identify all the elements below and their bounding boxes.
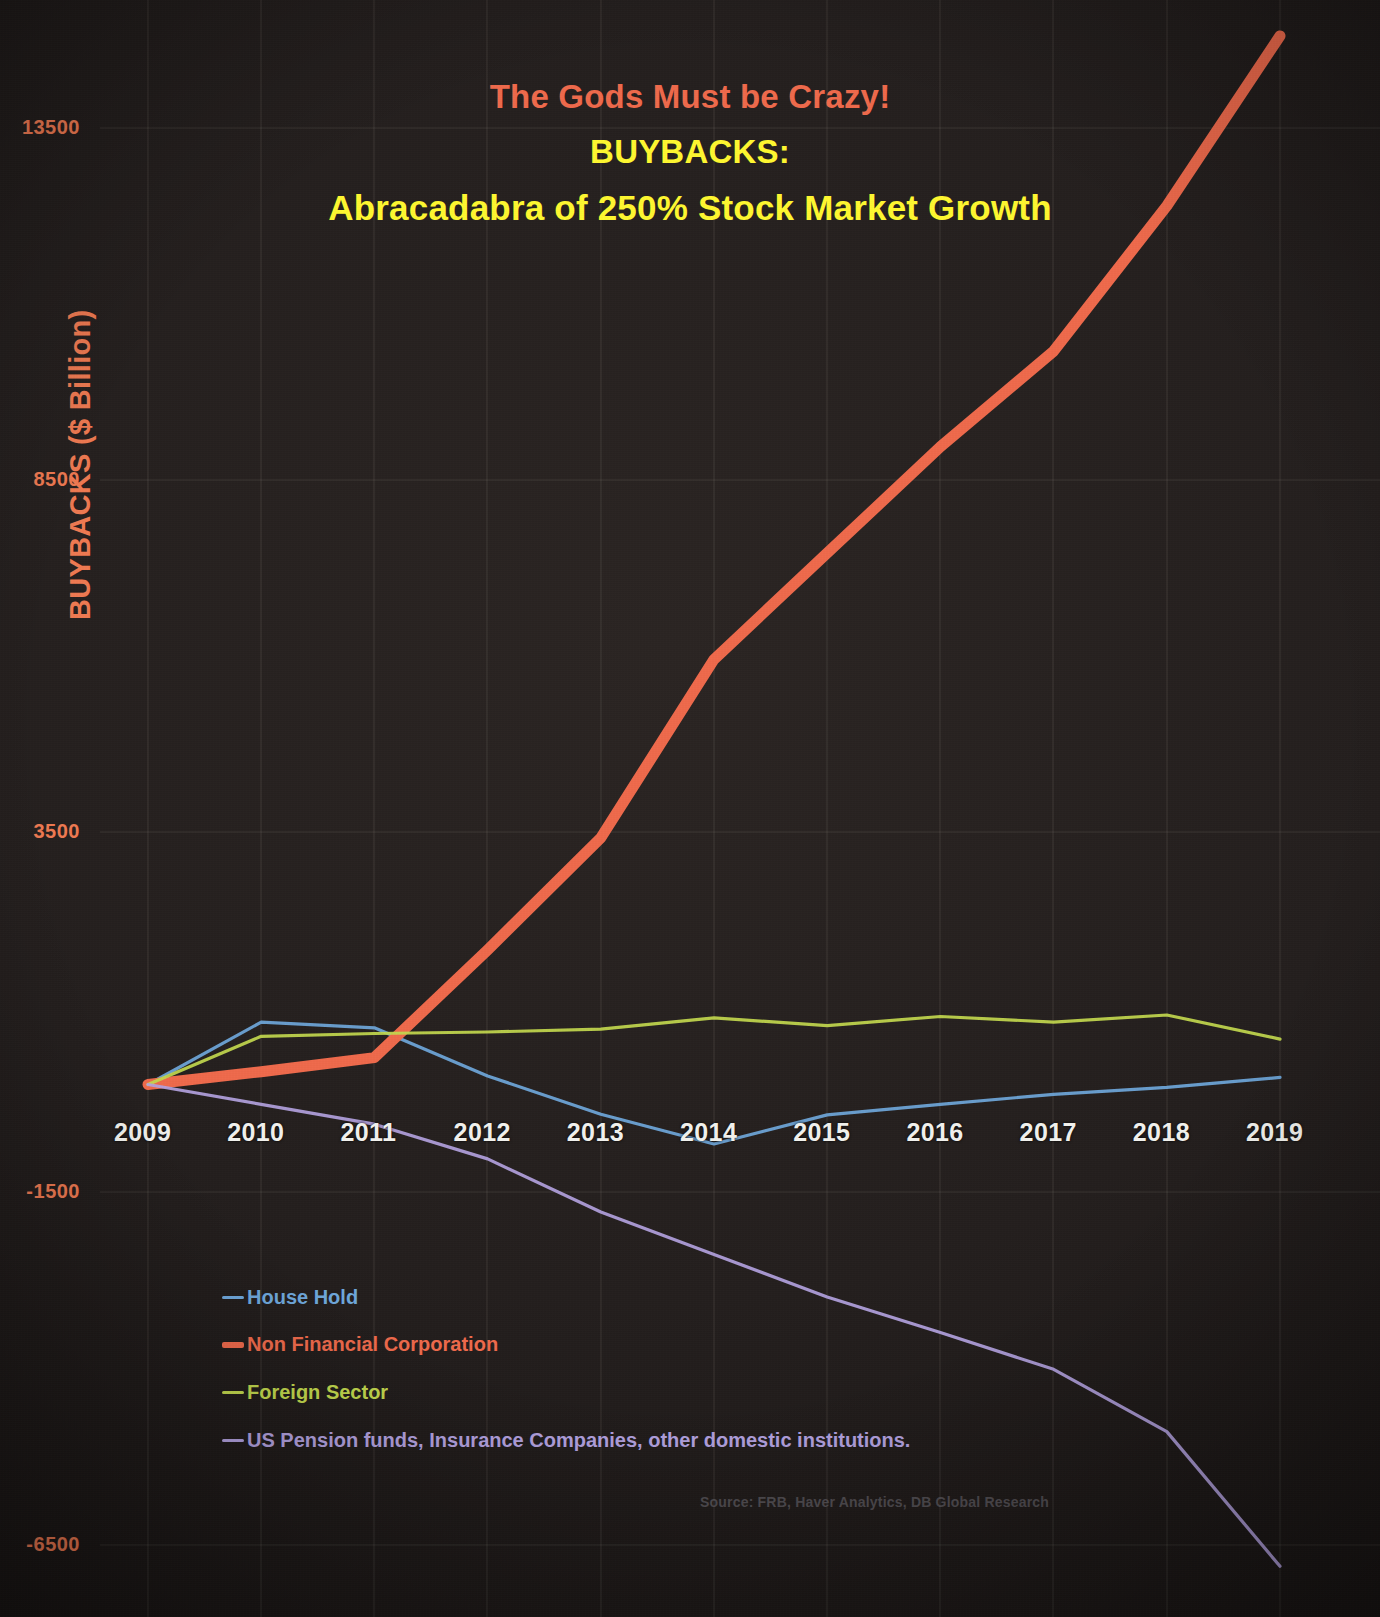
source-attribution: Source: FRB, Haver Analytics, DB Global …: [700, 1494, 1049, 1510]
chart-title-line-3: Abracadabra of 250% Stock Market Growth: [0, 188, 1380, 228]
legend-item-label: Foreign Sector: [247, 1381, 388, 1404]
x-axis-tick-label: 2009: [114, 1118, 171, 1147]
legend-item-label: Non Financial Corporation: [247, 1333, 498, 1356]
y-axis-tick-label: -1500: [26, 1180, 80, 1203]
x-axis-tick-label: 2018: [1133, 1118, 1190, 1147]
chart-plot-area: [0, 0, 1380, 1617]
chart-title-line-2: BUYBACKS:: [0, 133, 1380, 171]
legend-item[interactable]: House Hold: [222, 1286, 358, 1309]
legend-item-label: House Hold: [247, 1286, 358, 1309]
legend-item-label: US Pension funds, Insurance Companies, o…: [247, 1429, 910, 1452]
chart-title-line-1: The Gods Must be Crazy!: [0, 78, 1380, 116]
x-axis-tick-label: 2011: [340, 1118, 396, 1147]
grid-lines: [100, 0, 1380, 1617]
x-axis-tick-label: 2017: [1020, 1118, 1077, 1147]
x-axis-tick-label: 2010: [227, 1118, 284, 1147]
x-axis-tick-label: 2012: [454, 1118, 511, 1147]
x-axis-tick-label: 2015: [793, 1118, 850, 1147]
x-axis-tick-label: 2013: [567, 1118, 624, 1147]
legend-line-swatch: [222, 1439, 244, 1442]
legend-item[interactable]: Non Financial Corporation: [222, 1333, 498, 1356]
x-axis-tick-label: 2019: [1246, 1118, 1303, 1147]
legend-item[interactable]: Foreign Sector: [222, 1381, 388, 1404]
x-axis-tick-label: 2014: [680, 1118, 737, 1147]
legend-item[interactable]: US Pension funds, Insurance Companies, o…: [222, 1429, 910, 1452]
chart-canvas: 1350085003500-1500-6500 2009201020112012…: [0, 0, 1380, 1617]
y-axis-tick-label: 3500: [34, 820, 81, 843]
y-axis-tick-label: -6500: [26, 1533, 80, 1556]
legend-line-swatch: [222, 1342, 244, 1348]
x-axis-tick-label: 2016: [906, 1118, 963, 1147]
y-axis-title: BUYBACKS ($ Billion): [64, 200, 97, 620]
legend-line-swatch: [222, 1391, 244, 1394]
legend-line-swatch: [222, 1296, 244, 1299]
